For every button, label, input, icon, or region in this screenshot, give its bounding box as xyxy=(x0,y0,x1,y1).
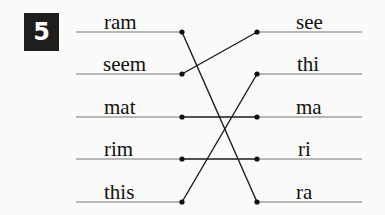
matching-lines xyxy=(0,0,385,215)
